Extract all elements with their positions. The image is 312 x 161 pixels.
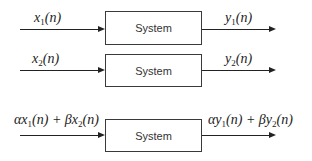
arrowhead-icon xyxy=(269,132,276,138)
output-label-2: y2(n) xyxy=(225,52,252,68)
output-arrow-2 xyxy=(202,70,270,71)
block-diagram: x1(n) System y1(n) x2(n) System y2(n) αx… xyxy=(0,0,312,161)
arrowhead-icon xyxy=(98,26,105,32)
output-arrow-3 xyxy=(202,135,270,136)
output-label-3: αy1(n) + βy2(n) xyxy=(208,113,293,129)
block-label: System xyxy=(135,130,172,142)
system-block-1: System xyxy=(105,11,202,45)
input-arrow-1 xyxy=(20,29,100,30)
arrowhead-icon xyxy=(98,67,105,73)
block-label: System xyxy=(135,22,172,34)
system-block-3: System xyxy=(105,119,202,152)
input-arrow-3 xyxy=(20,135,100,136)
input-arrow-2 xyxy=(20,70,100,71)
input-label-2: x2(n) xyxy=(32,52,59,68)
system-block-2: System xyxy=(105,54,202,87)
input-label-1: x1(n) xyxy=(34,11,61,27)
output-arrow-1 xyxy=(202,29,270,30)
input-label-3: αx1(n) + βx2(n) xyxy=(14,113,99,129)
block-label: System xyxy=(135,65,172,77)
arrowhead-icon xyxy=(269,67,276,73)
output-label-1: y1(n) xyxy=(225,11,252,27)
arrowhead-icon xyxy=(98,132,105,138)
arrowhead-icon xyxy=(269,26,276,32)
